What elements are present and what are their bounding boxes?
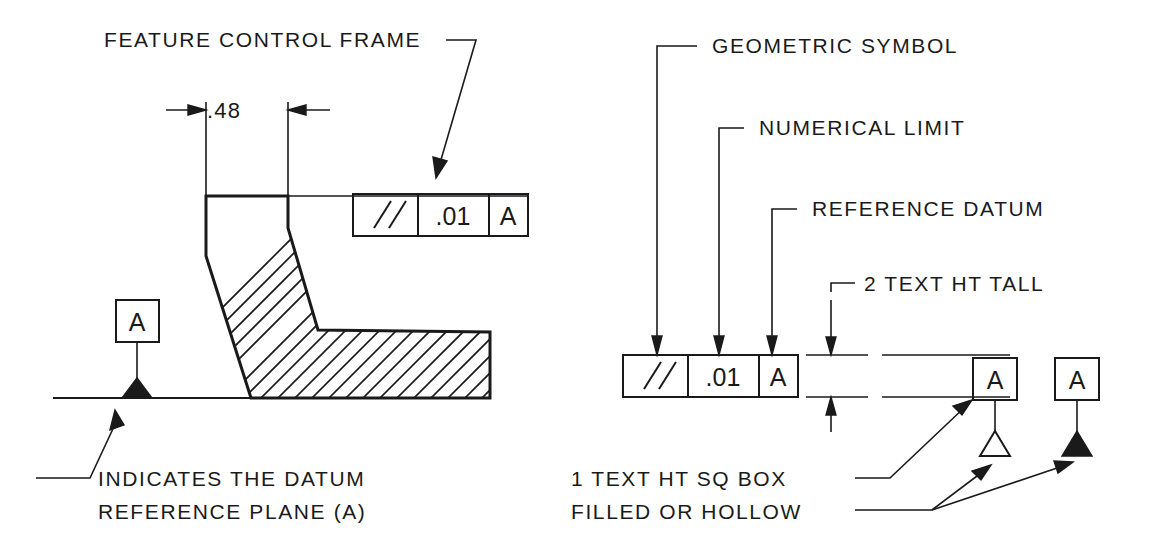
datum-letter-left-part: A: [129, 308, 146, 336]
label-one-text-ht-sq-box: 1 TEXT HT SQ BOX: [571, 467, 787, 490]
filled-datum-triangle-left: [122, 378, 152, 398]
parallelism-symbol-right: [644, 362, 676, 389]
label-indicates-datum-line1: INDICATES THE DATUM: [98, 467, 365, 490]
leader-numerical-limit: [714, 128, 744, 355]
label-indicates-datum-line2: REFERENCE PLANE (A): [98, 500, 366, 523]
label-geometric-symbol: GEOMETRIC SYMBOL: [712, 34, 958, 57]
technical-drawing-svg: FEATURE CONTROL FRAME .48: [0, 0, 1158, 549]
drawing-canvas: FEATURE CONTROL FRAME .48: [0, 0, 1158, 549]
datum-symbol-filled: A: [1055, 358, 1099, 456]
dimension-48: .48: [166, 98, 330, 196]
filled-datum-triangle-right: [1062, 431, 1092, 456]
datum-letter-hollow: A: [987, 366, 1004, 394]
fcf-right-datum: A: [770, 363, 787, 391]
leader-feature-control-frame: [433, 40, 476, 178]
label-filled-or-hollow: FILLED OR HOLLOW: [571, 500, 802, 523]
datum-symbol-left-part: A: [53, 300, 251, 398]
feature-control-frame-right: .01 A: [623, 355, 798, 397]
label-feature-control-frame: FEATURE CONTROL FRAME: [104, 28, 421, 51]
leader-reference-datum: [767, 209, 797, 355]
parallelism-symbol-left: [374, 201, 406, 228]
datum-symbol-hollow: A: [973, 358, 1017, 456]
label-2-text-ht-tall: 2 TEXT HT TALL: [864, 272, 1044, 295]
leader-filled-or-hollow: [855, 461, 1073, 510]
leader-text-ht-sq-box: [855, 400, 972, 478]
fcf-left-tolerance: .01: [436, 202, 471, 230]
datum-letter-filled: A: [1069, 366, 1086, 394]
feature-control-frame-left: .01 A: [353, 194, 528, 236]
dimension-value-48: .48: [207, 98, 241, 123]
fcf-right-tolerance: .01: [706, 363, 741, 391]
label-numerical-limit: NUMERICAL LIMIT: [759, 116, 965, 139]
hollow-datum-triangle: [980, 431, 1010, 456]
fcf-left-datum: A: [500, 202, 517, 230]
label-reference-datum: REFERENCE DATUM: [812, 197, 1044, 220]
leader-geometric-symbol: [652, 46, 697, 355]
